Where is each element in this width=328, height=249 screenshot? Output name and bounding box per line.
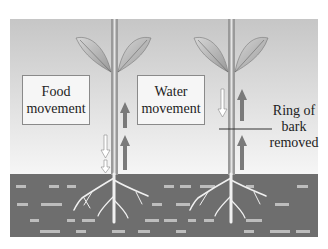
food-movement-label: Food movement xyxy=(22,75,90,125)
ring-of-bark-label: Ring of bark removed xyxy=(266,103,322,151)
ring-label-line3: removed xyxy=(266,135,322,151)
ring-label-line1: Ring of xyxy=(266,103,322,119)
food-label-line2: movement xyxy=(26,100,85,117)
water-label-line2: movement xyxy=(141,100,200,117)
water-label-line1: Water xyxy=(154,83,187,100)
food-label-line1: Food xyxy=(42,83,71,100)
water-movement-label: Water movement xyxy=(137,75,205,125)
ring-label-line2: bark xyxy=(266,119,322,135)
